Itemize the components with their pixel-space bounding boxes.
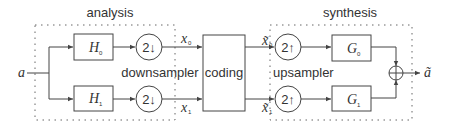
svg-text:2↓: 2↓ — [142, 92, 156, 107]
signal-x1-tilde-label: x̃ 1 — [261, 100, 273, 115]
svg-text:1: 1 — [269, 109, 273, 115]
analysis-filter-h1: H 1 — [74, 86, 113, 111]
sum-node-icon — [389, 66, 403, 80]
analysis-label: analysis — [87, 5, 134, 20]
svg-text:x̃: x̃ — [261, 33, 269, 48]
synthesis-filter-g0: G 0 — [332, 35, 371, 61]
downsampler-1: 2↓ — [136, 86, 162, 112]
svg-text:coding: coding — [205, 65, 243, 80]
svg-text:2↓: 2↓ — [142, 40, 156, 55]
svg-text:x̃: x̃ — [261, 100, 269, 115]
analysis-filter-h0: H 0 — [74, 34, 113, 60]
input-wire — [27, 47, 49, 99]
wire-g1-to-sum — [371, 80, 396, 98]
svg-text:1: 1 — [188, 109, 192, 115]
signal-x0-tilde-label: x̃ 0 — [261, 33, 273, 48]
wire-g0-to-sum — [371, 47, 396, 66]
synthesis-label: synthesis — [323, 5, 378, 20]
signal-x0-label: x 0 — [180, 31, 192, 46]
coding-block: coding — [203, 35, 245, 111]
downsampler-0: 2↓ — [136, 34, 162, 60]
svg-text:G: G — [347, 92, 357, 107]
signal-x1-label: x 1 — [180, 100, 192, 115]
svg-text:G: G — [347, 41, 357, 56]
filter-bank-diagram: analysis synthesis a H 0 H 1 2↓ 2↓ downs… — [0, 0, 450, 127]
svg-text:2↑: 2↑ — [281, 92, 295, 107]
svg-text:x: x — [180, 31, 188, 46]
svg-text:x: x — [180, 100, 188, 115]
svg-text:2↑: 2↑ — [281, 40, 295, 55]
upsampler-1: 2↑ — [275, 86, 301, 112]
input-signal-label: a — [18, 65, 25, 80]
output-signal-label: ã — [424, 65, 431, 80]
synthesis-filter-g1: G 1 — [332, 86, 371, 111]
downsampler-label: downsampler — [121, 65, 199, 80]
svg-text:0: 0 — [188, 40, 192, 46]
upsampler-label: upsampler — [273, 65, 334, 80]
upsampler-0: 2↑ — [275, 34, 301, 60]
